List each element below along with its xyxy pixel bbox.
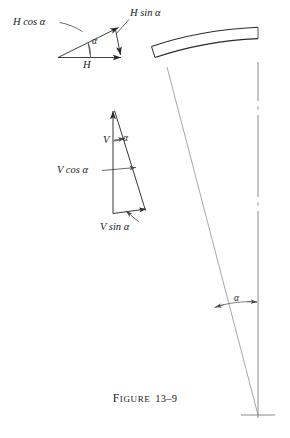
- bottom-alpha-arrow-left: [215, 305, 224, 308]
- label-alpha-bottom-text: α: [234, 293, 239, 303]
- caption-prefix: F: [113, 392, 120, 404]
- v-cos-alpha-vector-line: [115, 111, 146, 211]
- label-v-text: V: [103, 134, 109, 145]
- label-v-cos-alpha: V cos α: [57, 165, 88, 176]
- radius-line: [167, 67, 258, 415]
- label-h-cos-alpha-text: H cos α: [13, 16, 45, 27]
- curved-blade: [152, 27, 259, 57]
- figure-caption: FIGURE13–9: [0, 392, 290, 404]
- h-sin-alpha-leader: [117, 20, 130, 34]
- label-v-sin-alpha: V sin α: [100, 222, 129, 233]
- v-cos-alpha-leader: [102, 168, 136, 171]
- label-v: V: [103, 135, 109, 146]
- figure-drawing-canvas: [0, 0, 290, 438]
- label-alpha-bottom: α: [234, 294, 239, 304]
- h-force-triangle: [58, 28, 121, 58]
- label-h-cos-alpha: H cos α: [13, 17, 45, 28]
- vertical-centerline: [241, 62, 275, 418]
- label-h-sin-alpha-text: H sin α: [130, 7, 161, 18]
- h-cos-alpha-leader: [60, 23, 83, 32]
- blade-lower-arc: [155, 39, 258, 58]
- label-h: H: [83, 60, 91, 71]
- h-sin-alpha-vector-line: [116, 30, 121, 56]
- label-h-sin-alpha: H sin α: [130, 8, 161, 19]
- caption-smallcaps: IGURE: [120, 394, 151, 404]
- v-force-triangle: [113, 111, 146, 214]
- blade-upper-arc: [152, 27, 259, 46]
- label-v-sin-alpha-text: V sin α: [100, 221, 129, 232]
- label-v-cos-alpha-text: V cos α: [57, 164, 88, 175]
- figure-13-9: H cos α H sin α H α V α V cos α V sin α …: [0, 0, 290, 438]
- label-h-text: H: [83, 59, 91, 70]
- label-alpha-v-text: α: [123, 133, 128, 143]
- label-alpha-top: α: [92, 37, 97, 47]
- label-alpha-v: α: [123, 134, 128, 144]
- label-alpha-top-text: α: [92, 36, 97, 46]
- bottom-alpha-arrow-right: [247, 302, 257, 303]
- v-sin-alpha-vector-line: [113, 209, 146, 214]
- blade-left-cap: [152, 47, 156, 58]
- caption-number: 13–9: [155, 393, 177, 404]
